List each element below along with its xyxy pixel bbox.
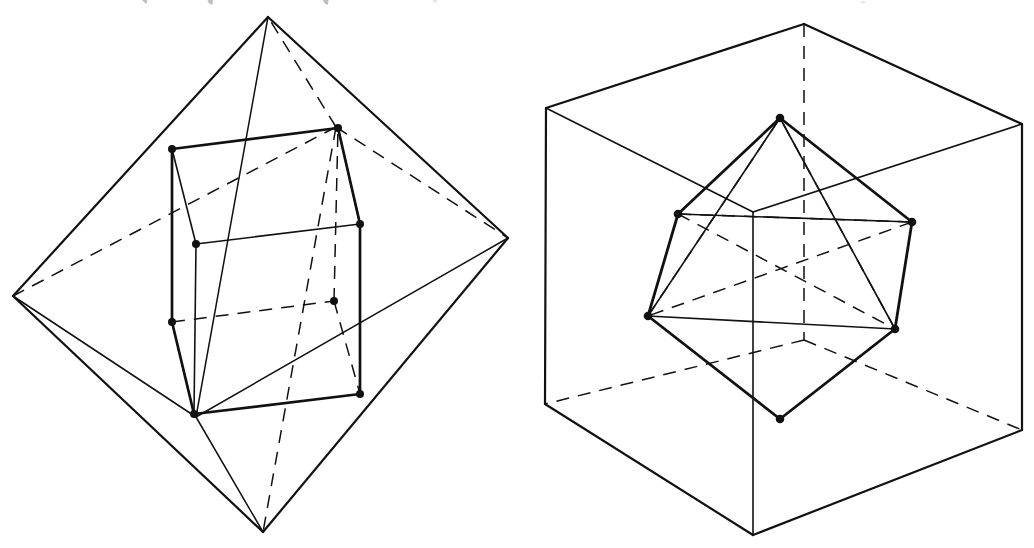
polyhedra-illustration	[0, 0, 1034, 548]
figure-page	[0, 0, 1034, 548]
page-background	[0, 0, 1034, 548]
